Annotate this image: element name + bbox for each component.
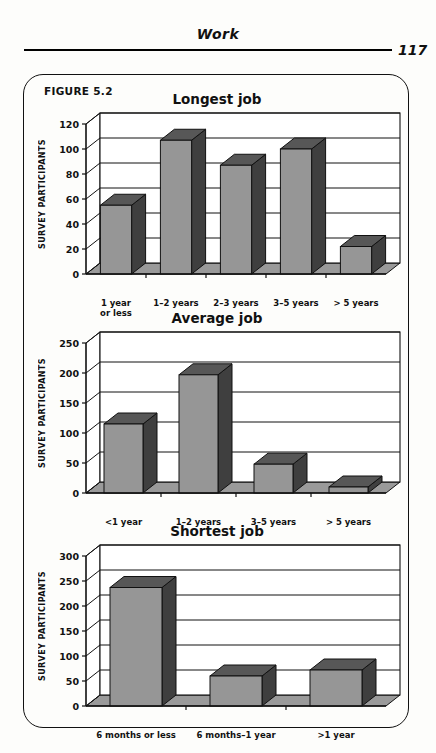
chart-title: Average job — [24, 310, 410, 326]
header-rule — [24, 49, 392, 51]
x-axis-tick-label: >1 year — [286, 730, 386, 740]
svg-text:200: 200 — [59, 368, 79, 379]
svg-text:50: 50 — [66, 676, 80, 687]
svg-text:100: 100 — [59, 651, 79, 662]
chart-title: Shortest job — [24, 523, 410, 539]
svg-text:100: 100 — [59, 428, 79, 439]
bar-plot: 020406080100120 — [42, 109, 428, 292]
svg-text:40: 40 — [66, 219, 80, 230]
svg-text:150: 150 — [59, 626, 79, 637]
svg-text:300: 300 — [59, 551, 79, 562]
svg-text:150: 150 — [59, 398, 79, 409]
svg-text:0: 0 — [72, 269, 79, 280]
x-axis-tick-label: 3–5 years — [266, 298, 326, 308]
x-axis-tick-label: 1–2 years — [146, 298, 206, 308]
figure-box: FIGURE 5.2 Longest job SURVEY PARTICIPAN… — [23, 74, 409, 728]
svg-text:120: 120 — [59, 119, 79, 130]
page-header: Work 117 — [0, 0, 436, 62]
x-axis-tick-label: 6 months or less — [86, 730, 186, 740]
chart-panel-longest-job: Longest job SURVEY PARTICIPANTS 02040608… — [24, 91, 410, 297]
x-axis-tick-label: 6 months–1 year — [186, 730, 286, 740]
bar-plot: 050100150200250300 — [42, 541, 428, 724]
svg-text:250: 250 — [59, 338, 79, 349]
svg-text:60: 60 — [66, 194, 80, 205]
running-head-title: Work — [0, 26, 436, 42]
svg-text:200: 200 — [59, 601, 79, 612]
bar-plot: 050100150200250 — [42, 328, 428, 511]
page-number: 117 — [398, 42, 427, 58]
chart-title: Longest job — [24, 91, 410, 107]
x-axis-tick-label: 2–3 years — [206, 298, 266, 308]
svg-text:80: 80 — [66, 169, 80, 180]
svg-text:20: 20 — [66, 244, 80, 255]
chart-panel-shortest-job: Shortest job SURVEY PARTICIPANTS 0501001… — [24, 523, 410, 729]
svg-text:100: 100 — [59, 144, 79, 155]
svg-text:50: 50 — [66, 458, 80, 469]
svg-text:0: 0 — [72, 488, 79, 499]
svg-text:250: 250 — [59, 576, 79, 587]
svg-text:0: 0 — [72, 701, 79, 712]
chart-panel-average-job: Average job SURVEY PARTICIPANTS 05010015… — [24, 310, 410, 516]
x-axis-tick-label: > 5 years — [326, 298, 386, 308]
